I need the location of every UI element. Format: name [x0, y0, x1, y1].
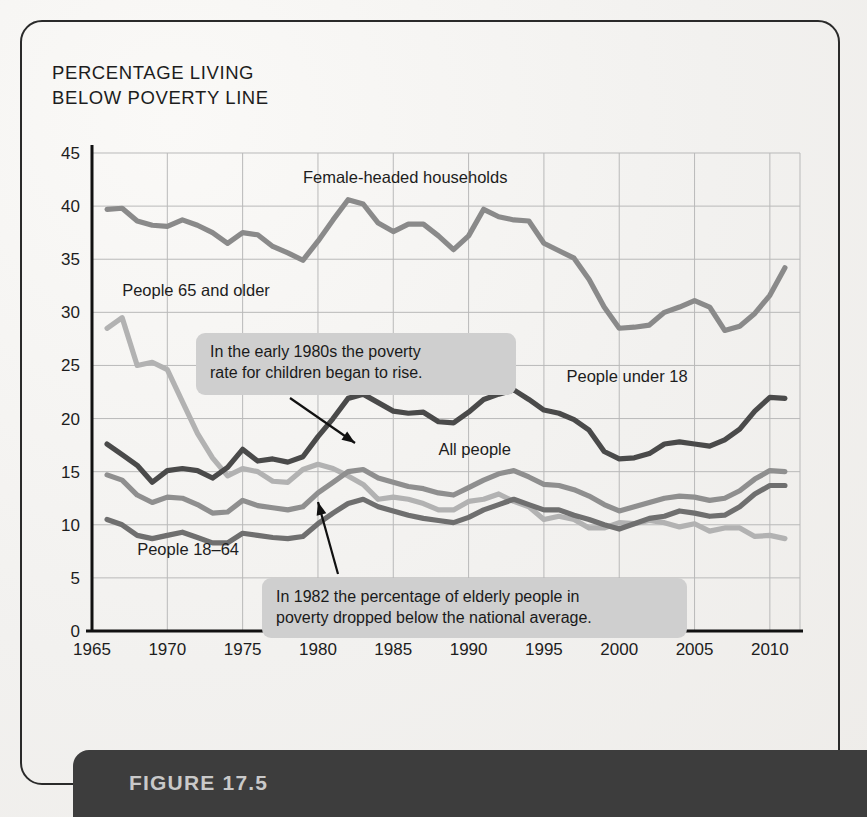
y-tick-15: 15 [61, 463, 80, 482]
series-label-0: Female-headed households [303, 168, 508, 186]
series-line-2 [107, 390, 785, 482]
series-label-2: People under 18 [567, 367, 688, 385]
figure-number-label: FIGURE 17.5 [129, 771, 268, 795]
x-tick-1995: 1995 [525, 640, 563, 659]
x-tick-2010: 2010 [751, 640, 789, 659]
y-tick-40: 40 [61, 197, 80, 216]
poverty-line-chart: 051015202530354045 196519701975198019851… [0, 0, 867, 700]
x-tick-1990: 1990 [450, 640, 488, 659]
chart-plot-area: 051015202530354045 196519701975198019851… [0, 0, 867, 700]
annotation-elderly-arrow-head [317, 502, 327, 516]
y-tick-0: 0 [71, 622, 80, 641]
series-label-1: People 65 and older [122, 281, 270, 299]
x-tick-1970: 1970 [148, 640, 186, 659]
x-tick-2005: 2005 [676, 640, 714, 659]
x-axis-tick-labels: 1965197019751980198519901995200020052010 [73, 640, 789, 659]
series-line-0 [107, 200, 785, 331]
y-tick-10: 10 [61, 516, 80, 535]
y-axis-tick-labels: 051015202530354045 [61, 144, 80, 641]
y-tick-35: 35 [61, 250, 80, 269]
x-tick-1980: 1980 [299, 640, 337, 659]
annotation-children-arrow-head [341, 431, 355, 443]
y-tick-5: 5 [71, 569, 80, 588]
y-tick-20: 20 [61, 410, 80, 429]
y-tick-30: 30 [61, 303, 80, 322]
x-tick-2000: 2000 [600, 640, 638, 659]
series-label-4: People 18–64 [137, 540, 239, 558]
x-tick-1965: 1965 [73, 640, 111, 659]
figure-caption-bar: FIGURE 17.5 [73, 750, 867, 817]
x-tick-1975: 1975 [224, 640, 262, 659]
y-tick-45: 45 [61, 144, 80, 163]
series-label-3: All people [438, 440, 510, 458]
y-tick-25: 25 [61, 356, 80, 375]
annotation-elderly-box [262, 578, 687, 638]
x-tick-1985: 1985 [374, 640, 412, 659]
